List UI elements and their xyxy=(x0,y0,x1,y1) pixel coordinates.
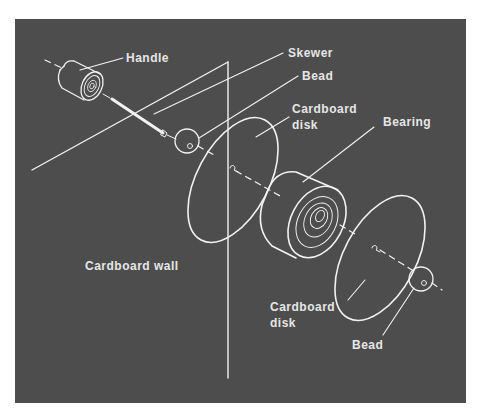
label-cardboard-wall: Cardboard wall xyxy=(85,258,179,274)
skewer-icon xyxy=(103,94,176,139)
label-bearing: Bearing xyxy=(383,114,431,130)
leader-lines xyxy=(80,53,414,335)
label-skewer: Skewer xyxy=(288,45,333,61)
label-cardboard-disk-bottom: Cardboard disk xyxy=(270,299,350,331)
label-cardboard-disk-bottom-line2: disk xyxy=(270,315,350,331)
bead-icon-top xyxy=(175,129,199,153)
label-cardboard-disk-top-line1: Cardboard xyxy=(292,101,372,117)
label-bead-bottom: Bead xyxy=(352,337,383,353)
label-cardboard-disk-bottom-line1: Cardboard xyxy=(270,299,350,315)
exploded-diagram xyxy=(0,0,477,419)
label-handle: Handle xyxy=(126,50,169,66)
handle-icon xyxy=(58,61,107,104)
label-cardboard-disk-top: Cardboard disk xyxy=(292,101,372,133)
label-cardboard-disk-top-line2: disk xyxy=(292,117,372,133)
bead-icon-bottom xyxy=(409,267,433,291)
cardboard-disk-icon-top xyxy=(169,103,296,257)
label-bead-top: Bead xyxy=(302,68,333,84)
